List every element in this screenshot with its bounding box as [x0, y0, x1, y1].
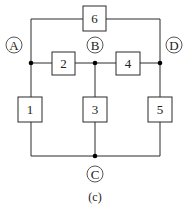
component-1: 1	[18, 97, 42, 122]
junction-d	[158, 61, 163, 66]
component-label: 4	[125, 56, 132, 71]
circuit-diagram: 6 2 4 1 3 5 A B D C (c)	[0, 0, 193, 210]
junction-c	[93, 154, 98, 159]
component-5: 5	[148, 97, 172, 122]
node-label-a: A	[6, 37, 22, 53]
node-label-c: C	[87, 166, 103, 182]
svg-text:A: A	[9, 38, 19, 53]
component-label: 6	[91, 11, 98, 26]
component-label: 3	[92, 102, 99, 117]
component-3: 3	[83, 97, 107, 122]
node-label-b: B	[87, 37, 103, 53]
node-label-d: D	[166, 37, 182, 53]
component-4: 4	[116, 52, 140, 75]
svg-text:B: B	[91, 38, 100, 53]
component-label: 1	[27, 102, 34, 117]
junction-a	[29, 61, 34, 66]
figure-caption: (c)	[88, 190, 101, 204]
component-label: 2	[60, 56, 67, 71]
component-2: 2	[52, 52, 75, 75]
svg-text:C: C	[91, 167, 100, 182]
svg-text:D: D	[169, 38, 178, 53]
component-6: 6	[83, 6, 106, 31]
component-label: 5	[157, 102, 164, 117]
junction-b	[93, 61, 98, 66]
